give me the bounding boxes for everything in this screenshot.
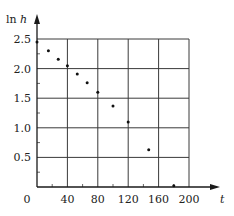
data-point (76, 72, 79, 75)
data-point (36, 40, 39, 43)
y-tick-label: 2.0 (14, 63, 32, 76)
minor-ticks (37, 54, 174, 187)
x-tick-label: 120 (118, 193, 139, 206)
x-axis-title: t (220, 193, 225, 206)
y-axis-title-ln: ln (6, 13, 20, 26)
data-point (66, 64, 69, 67)
y-tick-label: 1.0 (14, 122, 32, 135)
scatter-chart: 04080120160200 0.51.01.52.02.5 t ln h (0, 0, 234, 216)
data-point (127, 120, 130, 123)
y-axis-title-var: h (20, 13, 27, 26)
data-points (36, 40, 176, 187)
y-axis-arrow-icon (34, 14, 40, 24)
x-tick-labels: 04080120160200 (24, 193, 200, 206)
data-point (96, 91, 99, 94)
data-point (57, 58, 60, 61)
y-axis-title: ln h (6, 13, 27, 26)
x-tick-label: 0 (24, 193, 31, 206)
data-point (172, 184, 175, 187)
y-tick-label: 0.5 (14, 151, 32, 164)
x-tick-label: 200 (179, 193, 200, 206)
y-tick-labels: 0.51.01.52.02.5 (14, 33, 32, 164)
data-point (147, 148, 150, 151)
x-tick-label: 40 (60, 193, 74, 206)
x-tick-label: 80 (91, 193, 105, 206)
x-tick-label: 160 (148, 193, 169, 206)
data-point (112, 104, 115, 107)
data-point (86, 81, 89, 84)
data-point (47, 49, 50, 52)
y-tick-label: 1.5 (14, 92, 32, 105)
grid-lines (37, 39, 189, 187)
axes (34, 14, 220, 190)
y-tick-label: 2.5 (14, 33, 32, 46)
x-axis-arrow-icon (210, 184, 220, 190)
